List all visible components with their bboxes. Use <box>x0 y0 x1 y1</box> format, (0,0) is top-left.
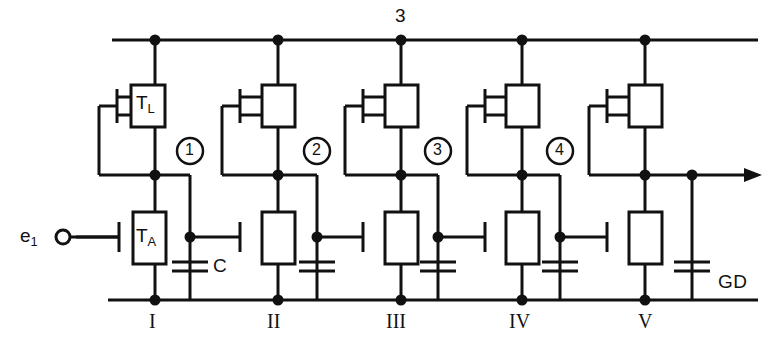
stage5-lower-transistor-body <box>629 212 662 264</box>
circled-number-4-text: 4 <box>555 142 564 158</box>
junction-dot-top-2 <box>273 35 284 46</box>
junction-dot-output-tap <box>687 170 698 181</box>
upper-transistor-label-subscript: L <box>148 101 155 116</box>
node-label-ii: II <box>267 311 280 331</box>
node-label-v: V <box>638 311 652 331</box>
upper-transistor-label-base: T <box>136 92 148 113</box>
junction-dot-bottom-4 <box>517 295 528 306</box>
stage4-lower-transistor-body <box>506 212 539 264</box>
node-label-iii: III <box>386 311 406 331</box>
output-arrow-head <box>744 168 762 182</box>
input-label-base: e <box>20 225 31 246</box>
stage2-upper-transistor-body <box>262 85 295 127</box>
junction-dot-mid-5 <box>640 170 651 181</box>
upper-transistor-label: TL <box>136 93 155 116</box>
junction-dot-top-5 <box>640 35 651 46</box>
capacitor-label: C <box>213 256 227 275</box>
junction-dot-top-3 <box>396 35 407 46</box>
gate-tap-dot-3 <box>433 232 444 243</box>
junction-dot-top-4 <box>517 35 528 46</box>
junction-dot-bottom-2 <box>273 295 284 306</box>
junction-dot-mid-2 <box>273 170 284 181</box>
stage5-upper-transistor-body <box>629 85 662 127</box>
stage3-upper-transistor-body <box>385 85 418 127</box>
gate-tap-dot-1 <box>185 232 196 243</box>
junction-dot-top-1 <box>150 35 161 46</box>
circled-number-2-text: 2 <box>312 142 321 158</box>
junction-dot-bottom-5 <box>640 295 651 306</box>
ground-rail-label: GD <box>718 272 748 291</box>
junction-dot-bottom-3 <box>396 295 407 306</box>
junction-dot-bottom-1 <box>150 295 161 306</box>
top-rail-label: 3 <box>395 6 406 25</box>
lower-transistor-label-base: T <box>136 225 148 246</box>
circuit-diagram-svg <box>0 0 770 344</box>
input-label-subscript: 1 <box>31 234 38 249</box>
stage2-lower-transistor-body <box>262 212 295 264</box>
gate-tap-dot-2 <box>312 232 323 243</box>
stage4-upper-transistor-body <box>506 85 539 127</box>
schematic-canvas: 3 GD e1 TL TA C 1 2 3 4 I II III IV V <box>0 0 770 344</box>
lower-transistor-label: TA <box>136 226 156 249</box>
input-signal-label: e1 <box>20 226 38 249</box>
junction-dot-mid-3 <box>396 170 407 181</box>
lower-transistor-label-subscript: A <box>148 234 157 249</box>
input-terminal-open-circle <box>56 230 70 244</box>
node-label-iv: IV <box>509 311 530 331</box>
circled-number-3-text: 3 <box>433 142 442 158</box>
circled-number-1-text: 1 <box>185 142 194 158</box>
gate-tap-dot-4 <box>555 232 566 243</box>
node-label-i: I <box>149 311 156 331</box>
junction-dot-mid-1 <box>150 170 161 181</box>
junction-dot-mid-4 <box>517 170 528 181</box>
stage3-lower-transistor-body <box>385 212 418 264</box>
